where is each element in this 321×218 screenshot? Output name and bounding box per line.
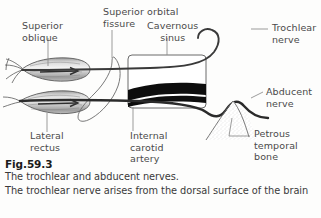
figure-page: Superior oblique Superior orbital fissur…	[0, 0, 321, 218]
label-trochlear-nerve: Trochlear nerve	[272, 22, 316, 45]
figure-number: Fig.59.3	[5, 158, 317, 170]
lateral-rectus-belly	[20, 91, 90, 114]
label-lateral-rectus: Lateral rectus	[30, 130, 64, 153]
figure-caption: Fig.59.3 The trochlear and abducent nerv…	[5, 158, 317, 198]
label-superior-oblique: Superior oblique	[22, 20, 63, 43]
label-cavernous-sinus: Cavernous sinus	[147, 20, 198, 43]
caption-line-2: The trochlear nerve arises from the dors…	[5, 184, 317, 198]
superior-oblique-tendon-fibers	[5, 58, 22, 83]
lateral-rectus-muscle	[3, 91, 90, 114]
superior-oblique-axis-arrow	[40, 71, 76, 72]
lateral-rectus-axis-arrow	[38, 103, 76, 104]
label-abducent-nerve: Abducent nerve	[266, 86, 312, 109]
leader-abducent-nerve	[251, 92, 263, 98]
lateral-rectus-tendon-fibers	[3, 97, 20, 107]
caption-line-1: The trochlear and abducent nerves.	[5, 170, 317, 184]
